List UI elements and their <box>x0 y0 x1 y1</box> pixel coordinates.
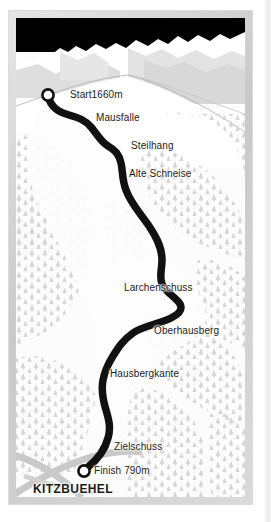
label-hausbergkante: Hausbergkante <box>110 368 179 379</box>
label-oberhausberg: Oberhausberg <box>154 325 219 336</box>
start-marker <box>42 89 53 100</box>
map-frame-border: Start1660m Mausfalle Steilhang Alte Schn… <box>9 11 252 504</box>
map-canvas: Start1660m Mausfalle Steilhang Alte Schn… <box>16 18 245 497</box>
label-start: Start1660m <box>70 89 123 100</box>
finish-marker <box>78 465 89 476</box>
label-town-kitzbuehel: KITZBUEHEL <box>33 482 113 496</box>
map-illustration <box>16 18 245 497</box>
adjacent-page-edge <box>263 0 271 522</box>
label-steilhang: Steilhang <box>131 140 174 151</box>
label-finish: Finish 790m <box>94 465 150 476</box>
label-alte-schneise: Alte Schneise <box>129 168 191 179</box>
label-zielschuss: Zielschuss <box>114 441 162 452</box>
label-mausfalle: Mausfalle <box>96 112 140 123</box>
label-larchenschuss: Larchenschuss <box>124 282 193 293</box>
map-page: Start1660m Mausfalle Steilhang Alte Schn… <box>0 0 271 522</box>
